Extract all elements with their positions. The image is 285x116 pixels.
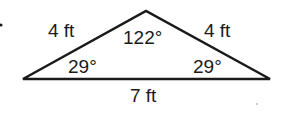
left-side-label: 4 ft	[48, 21, 74, 40]
apex-angle-label: 122°	[123, 28, 162, 47]
stray-dot	[0, 24, 3, 27]
base-right-angle-label: 29°	[193, 57, 222, 76]
right-side-label: 4 ft	[204, 21, 230, 40]
stray-dot	[256, 103, 258, 105]
base-side-label: 7 ft	[130, 86, 156, 105]
base-left-angle-label: 29°	[68, 57, 97, 76]
